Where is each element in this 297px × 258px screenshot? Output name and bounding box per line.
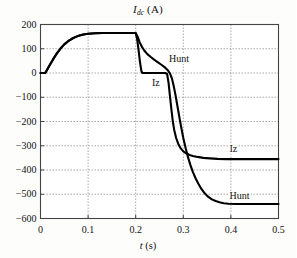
x-tick-label: 0.2	[116, 225, 156, 235]
y-tick-label: 0	[0, 68, 37, 78]
x-axis-title-symbol: t	[140, 240, 143, 251]
plot-canvas	[0, 0, 296, 258]
x-tick-label: 0.3	[163, 225, 203, 235]
x-axis-title: t (s)	[0, 240, 296, 251]
x-axis-title-unit: (s)	[145, 240, 156, 251]
series-annotation-hunt: Hunt	[168, 54, 190, 64]
chart-figure: Idc (A) 2001000−100−200−300−400−500−6000…	[0, 0, 296, 258]
x-tick-label: 0	[21, 225, 61, 235]
series-annotation-iz: Iz	[229, 144, 239, 154]
y-tick-label: −100	[0, 92, 37, 102]
y-tick-label: −300	[0, 141, 37, 151]
x-tick-label: 0.4	[211, 225, 251, 235]
y-tick-label: −400	[0, 165, 37, 175]
series-annotation-iz: Iz	[151, 78, 161, 88]
x-tick-label: 0.1	[68, 225, 108, 235]
y-tick-label: 200	[0, 20, 37, 30]
x-tick-label: 0.5	[259, 225, 297, 235]
y-tick-label: −500	[0, 189, 37, 199]
y-tick-label: −600	[0, 214, 37, 224]
series-annotation-hunt: Hunt	[229, 191, 251, 201]
y-tick-label: 100	[0, 44, 37, 54]
y-tick-label: −200	[0, 117, 37, 127]
